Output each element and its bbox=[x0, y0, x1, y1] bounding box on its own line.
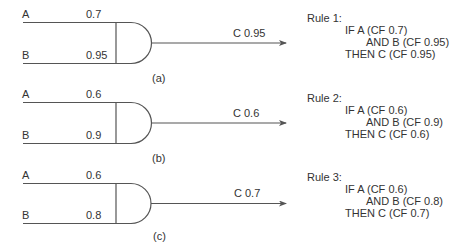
and-gate-diagram-c: A 0.6 B 0.8 C 0.7 (c) bbox=[22, 169, 286, 242]
input-b-label: B bbox=[22, 129, 29, 141]
input-b-cf: 0.9 bbox=[86, 129, 101, 141]
rule-if-clause: IF A (CF 0.7) bbox=[307, 24, 449, 36]
input-b-label: B bbox=[22, 209, 29, 221]
input-a-cf: 0.7 bbox=[86, 8, 101, 20]
diagram-caption: (c) bbox=[153, 230, 166, 242]
and-gate-diagram-a: A 0.7 B 0.95 C 0.95 (a) bbox=[22, 8, 286, 84]
input-a-label: A bbox=[22, 169, 30, 181]
rule-block-3: Rule 3: IF A (CF 0.6) AND B (CF 0.8) THE… bbox=[307, 171, 443, 219]
input-a-label: A bbox=[22, 88, 30, 100]
rule-block-1: Rule 1: IF A (CF 0.7) AND B (CF 0.95) TH… bbox=[307, 12, 449, 60]
output-label: C 0.7 bbox=[234, 187, 260, 199]
diagram-caption: (b) bbox=[152, 152, 165, 164]
and-gate-diagram-b: A 0.6 B 0.9 C 0.6 (b) bbox=[22, 88, 286, 164]
and-gate-icon bbox=[116, 23, 152, 64]
input-a-label: A bbox=[22, 8, 30, 20]
output-label: C 0.95 bbox=[233, 27, 265, 39]
input-b-cf: 0.95 bbox=[86, 49, 107, 61]
rule-and-clause: AND B (CF 0.8) bbox=[307, 195, 443, 207]
and-gate-icon bbox=[116, 184, 151, 224]
input-b-label: B bbox=[22, 49, 29, 61]
and-gate-icon bbox=[116, 103, 151, 144]
rule-then-clause: THEN C (CF 0.6) bbox=[307, 128, 443, 140]
rule-block-2: Rule 2: IF A (CF 0.6) AND B (CF 0.9) THE… bbox=[307, 92, 443, 140]
input-a-cf: 0.6 bbox=[86, 88, 101, 100]
input-a-cf: 0.6 bbox=[86, 169, 101, 181]
rule-and-clause: AND B (CF 0.9) bbox=[307, 116, 443, 128]
rule-then-clause: THEN C (CF 0.95) bbox=[307, 48, 449, 60]
rule-then-clause: THEN C (CF 0.7) bbox=[307, 207, 443, 219]
diagram-caption: (a) bbox=[152, 72, 165, 84]
rule-and-clause: AND B (CF 0.95) bbox=[307, 36, 449, 48]
rule-title: Rule 2: bbox=[307, 92, 443, 104]
output-label: C 0.6 bbox=[233, 107, 259, 119]
rule-if-clause: IF A (CF 0.6) bbox=[307, 183, 443, 195]
input-b-cf: 0.8 bbox=[86, 209, 101, 221]
rule-if-clause: IF A (CF 0.6) bbox=[307, 104, 443, 116]
rule-title: Rule 3: bbox=[307, 171, 443, 183]
rule-title: Rule 1: bbox=[307, 12, 449, 24]
